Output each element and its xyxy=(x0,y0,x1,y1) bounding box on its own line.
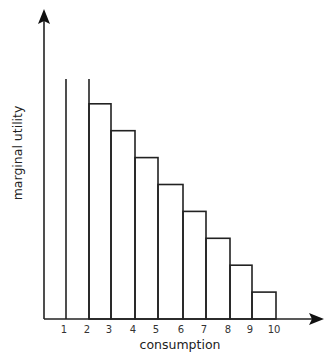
utility-bar xyxy=(89,104,111,319)
utility-bar xyxy=(206,238,230,319)
bars xyxy=(66,79,276,319)
x-tick-label: 8 xyxy=(225,324,231,335)
x-tick-label: 7 xyxy=(201,324,207,335)
x-tick-label: 9 xyxy=(247,324,253,335)
y-axis-label: marginal utility xyxy=(10,105,25,200)
utility-bar xyxy=(158,185,183,320)
utility-bar xyxy=(252,292,276,319)
x-tick-label: 2 xyxy=(84,324,90,335)
utility-bar xyxy=(111,131,135,319)
x-tick-labels: 12345678910 xyxy=(61,324,281,335)
x-tick-label: 5 xyxy=(153,324,159,335)
x-tick-label: 10 xyxy=(268,324,281,335)
x-tick-label: 4 xyxy=(130,324,136,335)
utility-bar xyxy=(183,211,206,319)
x-tick-label: 3 xyxy=(106,324,112,335)
marginal-utility-diagram: 12345678910 consumption marginal utility xyxy=(0,0,332,361)
utility-bar xyxy=(230,265,252,319)
utility-bar xyxy=(135,158,158,319)
x-tick-label: 1 xyxy=(61,324,67,335)
x-tick-label: 6 xyxy=(178,324,184,335)
x-axis-label: consumption xyxy=(140,337,221,352)
